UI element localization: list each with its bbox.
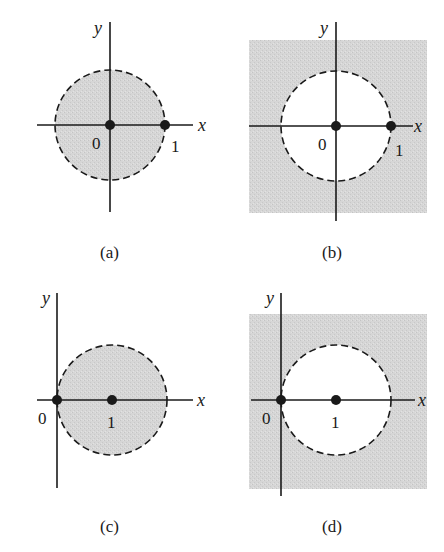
label-zero: 0 (318, 135, 327, 154)
center-point (107, 395, 117, 405)
label-one: 1 (171, 137, 180, 156)
label-zero: 0 (262, 409, 271, 428)
panel-a: y x 0 1 (a) (37, 18, 206, 262)
origin-point (331, 121, 341, 131)
origin-point (52, 395, 62, 405)
center-point (331, 395, 341, 405)
y-axis-label: y (318, 18, 328, 38)
panel-d: y x 0 1 (d) (249, 288, 427, 536)
x-axis-label: x (417, 390, 426, 410)
x-axis-label: x (196, 390, 205, 410)
y-axis-label: y (40, 288, 50, 308)
panel-c: y x 0 1 (c) (37, 288, 205, 536)
caption-d: (d) (322, 517, 342, 536)
label-one: 1 (331, 413, 340, 432)
y-axis-label: y (92, 18, 102, 38)
panel-b: y x 0 1 (b) (249, 18, 427, 262)
label-zero: 0 (38, 409, 47, 428)
label-one: 1 (395, 141, 404, 160)
origin-point (276, 395, 286, 405)
y-axis-label: y (264, 288, 274, 308)
label-one: 1 (107, 413, 116, 432)
caption-b: (b) (322, 243, 342, 262)
x-axis-label: x (197, 115, 206, 135)
label-zero: 0 (92, 134, 101, 153)
x-axis-label: x (413, 116, 422, 136)
unit-point (160, 120, 170, 130)
origin-point (105, 120, 115, 130)
caption-c: (c) (100, 517, 119, 536)
caption-a: (a) (100, 243, 119, 262)
unit-point (386, 121, 396, 131)
figure-canvas: y x 0 1 (a) y x 0 1 (b) y x 0 1 (c) (0, 0, 444, 552)
